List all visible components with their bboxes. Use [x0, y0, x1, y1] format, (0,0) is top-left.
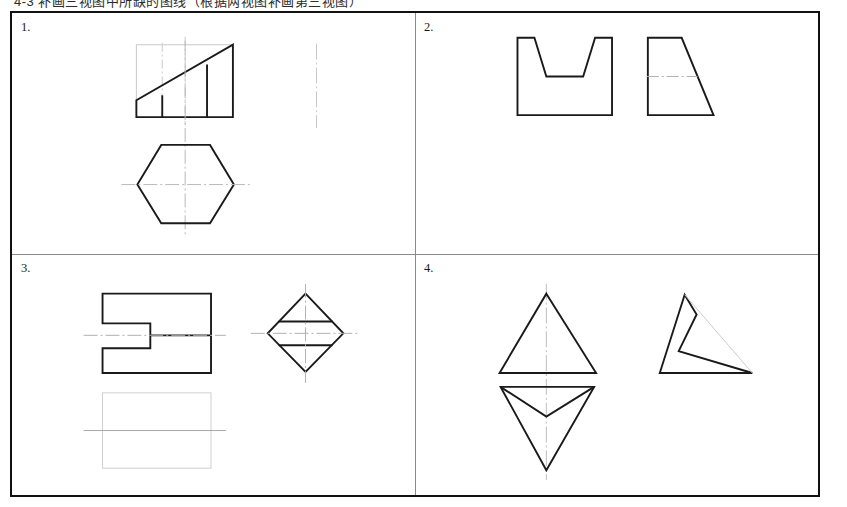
front-view-u-block — [517, 38, 612, 115]
exercise-panel-4[interactable]: 4. — [415, 254, 818, 495]
front-view-notched-rectangle — [103, 294, 211, 373]
panel-3-drawing — [12, 254, 415, 495]
exercise-panel-3[interactable]: 3. — [12, 254, 415, 495]
panel-4-drawing — [415, 254, 818, 495]
top-view-dart — [501, 387, 595, 470]
side-view-notched-triangle — [660, 295, 753, 373]
panel-1-drawing — [12, 13, 415, 254]
sheet-header-text: 4-3 补画三视图中所缺的图线（根据两视图补画第三视图） — [14, 0, 362, 9]
side-view-construction-diagonal — [685, 295, 753, 373]
front-view-construction-lines — [162, 37, 185, 124]
exercise-panel-1[interactable]: 1. — [12, 13, 415, 254]
front-view-triangle — [500, 294, 597, 373]
sheet-header: 4-3 补画三视图中所缺的图线（根据两视图补画第三视图） — [0, 0, 847, 9]
worksheet-frame: 1. — [10, 11, 820, 497]
panel-2-drawing — [415, 13, 818, 254]
exercise-panel-2[interactable]: 2. — [415, 13, 818, 254]
